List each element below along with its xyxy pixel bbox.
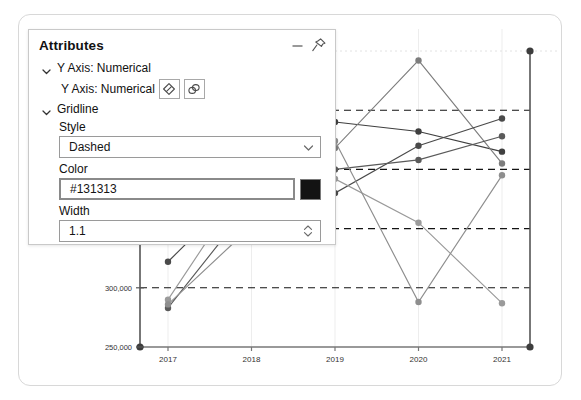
- color-field-row: #131313: [29, 178, 335, 200]
- gridline-width-value: 1.1: [69, 224, 300, 238]
- chevron-down-icon: [300, 141, 316, 154]
- width-field-row: 1.1: [29, 220, 335, 242]
- svg-text:2017: 2017: [159, 355, 177, 364]
- group-header-y-axis-numerical[interactable]: Y Axis: Numerical: [29, 60, 335, 76]
- gridline-style-select[interactable]: Dashed: [59, 136, 321, 158]
- group-label: Y Axis: Numerical: [57, 61, 151, 75]
- panel-title: Attributes: [39, 38, 104, 53]
- chevron-down-icon: [41, 63, 52, 74]
- panel-body: Y Axis: Numerical Y Axis: Numerical: [29, 60, 335, 242]
- minimize-glyph: [291, 39, 304, 52]
- gridline-color-value: #131313: [70, 182, 289, 196]
- gridline-style-value: Dashed: [69, 140, 300, 154]
- attributes-panel[interactable]: Attributes: [28, 29, 336, 245]
- group-header-gridline[interactable]: Gridline: [29, 101, 335, 117]
- svg-text:2018: 2018: [243, 355, 261, 364]
- panel-header[interactable]: Attributes: [29, 30, 335, 60]
- panel-header-buttons: [287, 35, 329, 55]
- style-field-row: Dashed: [29, 136, 335, 158]
- svg-text:2020: 2020: [410, 355, 428, 364]
- link-glyph: [187, 82, 201, 96]
- svg-text:2019: 2019: [326, 355, 344, 364]
- gridline-width-stepper[interactable]: 1.1: [59, 220, 321, 242]
- svg-text:300,000: 300,000: [105, 284, 132, 293]
- eraser-icon[interactable]: [159, 79, 180, 99]
- chevron-down-icon: [41, 104, 52, 115]
- eraser-glyph: [162, 82, 176, 96]
- pin-icon[interactable]: [309, 35, 329, 55]
- y-axis-numerical-row: Y Axis: Numerical: [29, 77, 335, 101]
- link-icon[interactable]: [184, 79, 205, 99]
- spinner-arrows-icon[interactable]: [300, 223, 316, 239]
- minimize-icon[interactable]: [287, 35, 307, 55]
- svg-text:2021: 2021: [493, 355, 511, 364]
- y-axis-numerical-label: Y Axis: Numerical: [61, 82, 155, 96]
- group-label: Gridline: [57, 102, 98, 116]
- color-label: Color: [29, 159, 335, 178]
- svg-text:250,000: 250,000: [105, 343, 132, 352]
- width-label: Width: [29, 201, 335, 220]
- color-swatch[interactable]: [300, 179, 321, 200]
- gridline-color-input[interactable]: #131313: [59, 178, 295, 200]
- style-label: Style: [29, 117, 335, 136]
- pin-glyph: [311, 37, 327, 53]
